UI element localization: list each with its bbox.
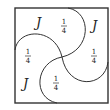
label-j-top-right: J xyxy=(89,18,98,33)
arc-left xyxy=(15,34,62,57)
label-j-bottom-left: J xyxy=(20,76,29,91)
svg-text:1: 1 xyxy=(54,75,58,83)
fraction-bottom-mid: 1 4 xyxy=(53,75,59,92)
arc-bottom xyxy=(40,57,62,103)
fraction-left: 1 4 xyxy=(25,48,31,65)
fraction-right: 1 4 xyxy=(91,48,97,65)
svg-text:1: 1 xyxy=(92,48,96,56)
svg-text:1: 1 xyxy=(62,18,66,26)
label-j-top-left: J xyxy=(33,15,42,30)
fraction-top-mid: 1 4 xyxy=(61,18,67,35)
svg-text:4: 4 xyxy=(26,57,31,65)
pinwheel-diagram: J J J 1 4 1 4 1 4 1 4 xyxy=(0,0,110,110)
svg-text:4: 4 xyxy=(62,27,67,35)
svg-text:4: 4 xyxy=(54,84,59,92)
svg-text:4: 4 xyxy=(92,57,97,65)
arc-right xyxy=(62,57,108,82)
svg-text:1: 1 xyxy=(26,48,30,56)
